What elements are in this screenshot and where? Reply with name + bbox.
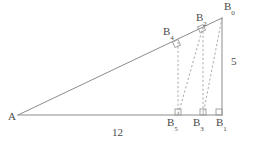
vertex-label-B3: B3 bbox=[193, 117, 204, 128]
side-label-base: 12 bbox=[112, 127, 123, 138]
vertex-label-B5: B5 bbox=[167, 117, 178, 128]
vertex-label-B0: B0 bbox=[224, 1, 235, 12]
side-label-right: 5 bbox=[231, 56, 237, 67]
vertex-label-A: A bbox=[8, 111, 16, 122]
vertex-label-B1: B1 bbox=[216, 117, 227, 128]
vertex-label-B4: B4 bbox=[163, 26, 174, 37]
vertex-label-B2: B2 bbox=[196, 12, 207, 23]
segment-b2-b5 bbox=[178, 27, 203, 115]
right-angle-icon-b1 bbox=[216, 109, 222, 115]
segment-b0-b3 bbox=[203, 18, 222, 115]
